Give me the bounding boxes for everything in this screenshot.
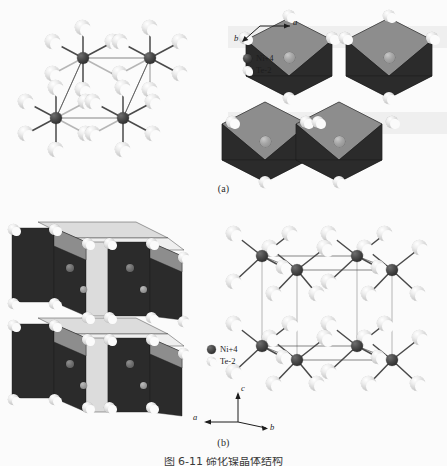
te-atom	[226, 316, 241, 331]
ni-atom	[256, 340, 268, 352]
te-atom	[317, 240, 332, 255]
te-atom	[410, 286, 425, 301]
te-atom	[145, 94, 160, 109]
ni-atom	[384, 52, 395, 63]
te-atom	[361, 376, 376, 391]
te-atom	[371, 260, 385, 274]
ni-atom	[66, 360, 74, 368]
axis-label-b: b	[270, 422, 274, 432]
te-atom	[18, 126, 33, 141]
panel-b-caption: (b)	[0, 437, 447, 448]
figure-bottom-caption-text: 图 6-11 碲化镍晶体结构	[0, 457, 447, 466]
ni-atom	[386, 354, 398, 366]
te-atom	[226, 226, 241, 241]
te-atom	[146, 312, 157, 323]
te-atom	[75, 20, 90, 35]
panel-a: a b Ni+4 Te-2 (a)	[0, 0, 447, 195]
te-atom	[172, 34, 187, 49]
ni-atom	[80, 382, 87, 389]
te-atom	[104, 312, 115, 323]
te-atom	[426, 32, 438, 44]
figure-bottom-caption: 图 6-11 碲化镍晶体结构	[0, 457, 447, 466]
ni-atom	[260, 136, 271, 147]
ni-atom	[291, 354, 303, 366]
te-atom	[383, 92, 395, 104]
figure-root: a b Ni+4 Te-2 (a)	[0, 0, 447, 466]
te-atom	[321, 316, 336, 331]
ni-atom	[140, 286, 147, 293]
te-atom	[282, 226, 297, 241]
te-atom	[82, 334, 93, 345]
te-atom	[276, 350, 290, 364]
te-atom	[321, 226, 336, 241]
te-sphere-icon	[243, 66, 252, 75]
te-atom	[283, 92, 295, 104]
te-atom	[383, 10, 395, 22]
panel-a-ball-stick-model	[8, 10, 208, 185]
te-atom	[85, 94, 100, 109]
ni-atom	[144, 52, 156, 64]
ni-atom	[140, 382, 147, 389]
panel-b-caption-text: (b)	[217, 437, 229, 448]
ni-atom	[126, 264, 134, 272]
te-atom	[146, 402, 157, 413]
te-atom	[8, 298, 19, 309]
te-atom	[339, 32, 351, 44]
legend-label-ni: Ni+4	[220, 344, 238, 355]
te-atom	[226, 116, 238, 128]
ni-atom	[291, 264, 303, 276]
ni-sphere-icon	[207, 345, 216, 354]
axis-label-b: b	[234, 33, 238, 43]
axis-label-a: a	[193, 412, 197, 422]
ni-atom	[66, 264, 74, 272]
te-atom	[45, 66, 60, 81]
te-atom	[276, 260, 290, 274]
te-atom	[49, 394, 60, 405]
ni-atom	[50, 112, 62, 124]
panel-b: Ni+4 Te-2 c a b	[0, 200, 447, 466]
te-atom	[146, 238, 157, 249]
te-atom	[112, 66, 127, 81]
te-atom	[115, 80, 130, 95]
legend-item-ni: Ni+4	[243, 53, 274, 64]
legend-label-te: Te-2	[220, 356, 235, 367]
te-atom	[178, 252, 189, 263]
te-atom	[82, 402, 93, 413]
te-atom	[145, 126, 160, 141]
te-atom	[48, 142, 63, 157]
te-atom	[266, 286, 281, 301]
te-atom	[377, 226, 392, 241]
te-atom	[49, 224, 60, 235]
ni-atom	[117, 112, 129, 124]
te-sphere-icon	[207, 357, 216, 366]
te-atom	[178, 316, 189, 327]
te-atom	[321, 364, 336, 379]
te-atom	[82, 238, 93, 249]
te-atom	[104, 238, 115, 249]
legend-label-ni: Ni+4	[256, 53, 274, 64]
ni-atom	[334, 136, 345, 147]
te-atom	[8, 394, 19, 405]
legend-bottom: Ni+4 Te-2	[207, 344, 238, 368]
te-atom	[361, 286, 376, 301]
axes-indicator-top: a b	[234, 8, 304, 50]
legend-top: Ni+4 Te-2	[243, 53, 274, 77]
te-atom	[49, 320, 60, 331]
ni-atom	[77, 52, 89, 64]
ni-atom	[80, 286, 87, 293]
te-atom	[309, 376, 324, 391]
ni-atom	[284, 52, 295, 63]
te-atom	[104, 334, 115, 345]
te-atom	[45, 34, 60, 49]
te-atom	[18, 94, 33, 109]
te-atom	[282, 316, 297, 331]
ni-atom	[256, 250, 268, 262]
axis-label-a: a	[293, 17, 297, 27]
ni-atom	[126, 360, 134, 368]
te-atom	[410, 376, 425, 391]
te-atom	[412, 330, 427, 345]
te-atom	[142, 20, 157, 35]
te-atom	[48, 80, 63, 95]
te-atom	[371, 350, 385, 364]
te-atom	[82, 312, 93, 323]
